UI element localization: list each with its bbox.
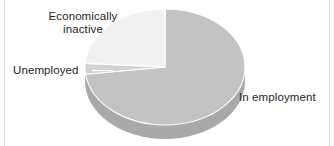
pie-label-in-employment: In employment — [239, 91, 331, 104]
pie-label-economically-inactive: Economically inactive — [36, 10, 130, 36]
pie-chart-figure: Economically inactive Unemployed In empl… — [0, 0, 334, 146]
pie-label-unemployed: Unemployed — [13, 64, 99, 77]
